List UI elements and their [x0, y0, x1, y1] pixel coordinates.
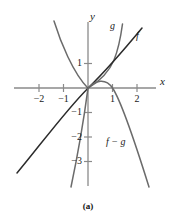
- y-tick-label-pos1: 1: [72, 58, 82, 68]
- y-tick-label-neg1: −1: [66, 107, 82, 117]
- figure-caption: (a): [0, 201, 176, 211]
- x-axis-label: x: [160, 76, 165, 87]
- y-axis-label: y: [90, 11, 95, 22]
- x-tick-label-pos1: 1: [108, 94, 118, 104]
- x-tick-label-pos2: 2: [132, 94, 142, 104]
- y-tick-label-neg2: −2: [66, 132, 82, 142]
- y-tick-label-neg3: −3: [66, 156, 82, 166]
- figure-container: x y −2 −1 1 2 1 −1 −2 −3 g f f − g (a): [0, 0, 176, 221]
- curve-label-f-minus-g: f − g: [106, 137, 126, 147]
- x-tick-label-neg2: −2: [31, 94, 47, 104]
- x-tick-label-neg1: −1: [56, 94, 72, 104]
- curve-label-f: f: [136, 31, 139, 41]
- curve-g: [54, 21, 88, 88]
- graph-plot: [0, 0, 176, 221]
- curve-label-g: g: [110, 21, 115, 31]
